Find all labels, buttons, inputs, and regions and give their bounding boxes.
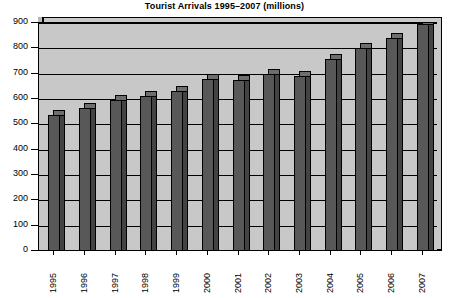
x-axis-tick-label: 1995 bbox=[49, 273, 58, 293]
y-axis-line bbox=[38, 22, 39, 251]
x-axis-tick-label: 2000 bbox=[203, 273, 212, 293]
bar bbox=[110, 100, 122, 250]
gridline bbox=[39, 23, 437, 24]
x-axis-tick-label: 2007 bbox=[418, 273, 427, 293]
x-axis-tick-label: 2003 bbox=[295, 273, 304, 293]
x-axis-tick bbox=[391, 250, 392, 255]
y-axis-tick bbox=[31, 73, 38, 74]
y-axis-tick bbox=[31, 98, 38, 99]
plot-right-edge bbox=[437, 17, 442, 250]
x-axis-tick bbox=[115, 250, 116, 255]
y-axis-tick-label: 400 bbox=[13, 144, 28, 153]
bar bbox=[79, 108, 91, 250]
plot-area bbox=[38, 22, 437, 250]
bar bbox=[325, 59, 337, 250]
x-axis-tick bbox=[422, 250, 423, 255]
y-axis-tick-label: 0 bbox=[23, 245, 28, 254]
bar bbox=[263, 74, 275, 250]
gridline bbox=[39, 48, 437, 49]
y-axis-tick bbox=[31, 174, 38, 175]
y-axis-tick bbox=[31, 123, 38, 124]
y-axis-tick-label: 500 bbox=[13, 118, 28, 127]
x-axis-tick-label: 2002 bbox=[264, 273, 273, 293]
x-axis-tick-label: 1998 bbox=[141, 273, 150, 293]
x-axis-tick-label: 2005 bbox=[356, 273, 365, 293]
y-axis-tick bbox=[31, 199, 38, 200]
y-axis-tick-label: 700 bbox=[13, 68, 28, 77]
y-axis-tick-label: 200 bbox=[13, 194, 28, 203]
bar bbox=[294, 76, 306, 250]
x-axis-line bbox=[38, 250, 442, 251]
bar bbox=[417, 24, 429, 250]
x-axis-tick bbox=[238, 250, 239, 255]
y-axis-tick bbox=[31, 250, 38, 251]
x-axis-tick bbox=[299, 250, 300, 255]
x-axis-tick-label: 1999 bbox=[172, 273, 181, 293]
y-axis-tick-label: 300 bbox=[13, 169, 28, 178]
bar bbox=[233, 80, 245, 250]
x-axis-tick bbox=[176, 250, 177, 255]
chart-title: Tourist Arrivals 1995–2007 (millions) bbox=[0, 1, 449, 11]
x-axis-tick-label: 1997 bbox=[111, 273, 120, 293]
x-axis-tick bbox=[207, 250, 208, 255]
y-axis-tick-label: 900 bbox=[13, 17, 28, 26]
x-axis-tick bbox=[53, 250, 54, 255]
x-axis-tick-label: 2006 bbox=[387, 273, 396, 293]
x-axis-tick bbox=[84, 250, 85, 255]
bar bbox=[171, 91, 183, 250]
x-axis-tick-label: 2004 bbox=[326, 273, 335, 293]
y-axis-tick-label: 800 bbox=[13, 42, 28, 51]
x-axis-tick-label: 2001 bbox=[234, 273, 243, 293]
bar bbox=[48, 115, 60, 250]
y-axis-tick bbox=[31, 149, 38, 150]
y-axis-tick-label: 100 bbox=[13, 220, 28, 229]
bar-chart: Tourist Arrivals 1995–2007 (millions) 01… bbox=[0, 0, 449, 298]
bar bbox=[202, 79, 214, 250]
x-axis-tick bbox=[268, 250, 269, 255]
bar bbox=[140, 96, 152, 250]
bar bbox=[355, 48, 367, 250]
y-axis-tick-label: 600 bbox=[13, 93, 28, 102]
x-axis-tick bbox=[145, 250, 146, 255]
bar bbox=[386, 38, 398, 250]
x-axis-tick bbox=[330, 250, 331, 255]
x-axis-tick bbox=[360, 250, 361, 255]
x-axis-tick-label: 1996 bbox=[80, 273, 89, 293]
y-axis-tick bbox=[31, 225, 38, 226]
y-axis-tick bbox=[31, 22, 38, 23]
y-axis-tick bbox=[31, 47, 38, 48]
